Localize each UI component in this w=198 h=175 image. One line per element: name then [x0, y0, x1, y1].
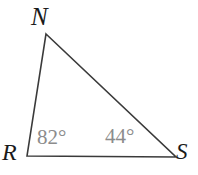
vertex-label-r: R — [2, 140, 17, 164]
vertex-label-s: S — [176, 140, 188, 163]
vertex-label-n: N — [31, 4, 48, 29]
angle-measure-at-s: 44° — [105, 126, 134, 147]
triangle-drawing — [0, 0, 198, 175]
geometry-figure-triangle-rns: N R S 82° 44° — [0, 0, 198, 175]
angle-measure-at-r: 82° — [37, 127, 66, 148]
